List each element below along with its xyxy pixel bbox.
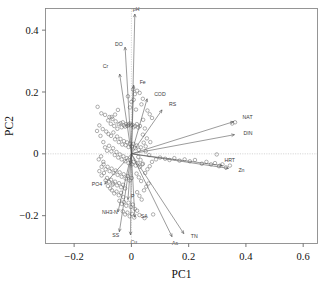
loading-label: RS: [169, 101, 177, 107]
loading-label: SA: [141, 213, 148, 219]
plot-background: [0, 0, 329, 285]
loading-label: PO4: [92, 181, 102, 187]
y-tick-label: 0.4: [25, 25, 39, 36]
loading-label: TN: [191, 233, 198, 239]
x-axis-title: PC1: [172, 268, 192, 280]
loading-label: COD: [154, 91, 166, 97]
x-tick-label: 0.2: [182, 251, 195, 262]
y-tick-label: 0: [33, 148, 38, 159]
loading-label: HRT: [224, 157, 235, 163]
loading-label: SS: [112, 232, 119, 238]
loading-label: DIN: [243, 130, 252, 136]
loading-label: pH: [133, 6, 140, 12]
loading-label: NH3-N: [102, 209, 118, 215]
x-tick-label: 0.6: [297, 251, 310, 262]
x-tick-label: 0.4: [239, 251, 253, 262]
loading-label: NAT: [243, 114, 254, 120]
loading-label: Zn: [238, 167, 244, 173]
loading-label: Fe: [140, 79, 146, 85]
y-tick-label: 0.2: [25, 87, 38, 98]
loading-label: Cr: [103, 63, 109, 69]
loading-label: P: [131, 193, 135, 199]
pca-biplot-figure: pHDOCrFeCODRSNATDINHRTZnTNAsSACuSSNH3-NP…: [0, 0, 329, 285]
x-tick-label: −0.2: [65, 251, 84, 262]
biplot-canvas: pHDOCrFeCODRSNATDINHRTZnTNAsSACuSSNH3-NP…: [0, 0, 329, 285]
loading-label: DO: [115, 41, 123, 47]
y-axis-title: PC2: [3, 116, 15, 136]
x-tick-label: 0: [129, 251, 134, 262]
y-tick-label: −0.2: [19, 210, 38, 221]
loading-label: As: [172, 240, 178, 246]
